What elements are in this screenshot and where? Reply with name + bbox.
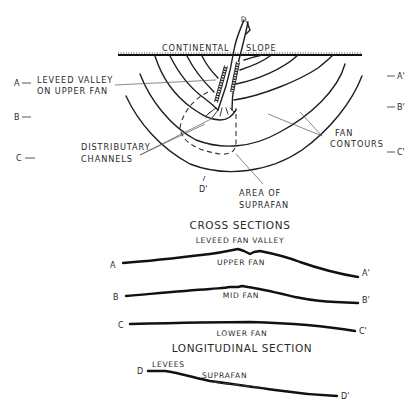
section-c-end: C' xyxy=(359,327,367,336)
key-c-prime: C' xyxy=(397,148,405,157)
levees-label: LEVEES xyxy=(152,360,185,369)
suprafan-label-1: AREA OF xyxy=(239,188,281,198)
distributary-label-1: DISTRIBUTARY xyxy=(81,142,151,152)
cross-sections-title: CROSS SECTIONS xyxy=(190,219,291,231)
d-prime-label: D' xyxy=(199,185,207,194)
key-a-prime: A' xyxy=(397,72,405,81)
fan-contours-label-2: CONTOURS xyxy=(330,139,384,149)
section-a-end: A' xyxy=(362,269,370,278)
suprafan-label-2: SUPRAFAN xyxy=(239,200,289,210)
key-b: B xyxy=(14,113,20,122)
submarine-fan-diagram: D CONTINENTAL SLOPE A B C A' B' C' LEVEE… xyxy=(0,0,419,410)
section-b-start: B xyxy=(113,293,119,302)
canyon-d-label: D xyxy=(241,15,248,24)
key-b-prime: B' xyxy=(397,103,405,112)
section-b-end: B' xyxy=(362,296,370,305)
longitudinal-section: LONGITUDINAL SECTION D LEVEES SUPRAFAN D… xyxy=(137,342,349,401)
lower-fan-label: LOWER FAN xyxy=(217,329,268,338)
key-c: C xyxy=(16,154,22,163)
section-d-end: D' xyxy=(341,392,349,401)
fan-contours xyxy=(126,55,362,172)
cross-sections: CROSS SECTIONS LEVEED FAN VALLEY A UPPER… xyxy=(110,219,370,338)
longitudinal-section-title: LONGITUDINAL SECTION xyxy=(172,342,313,354)
section-a-start: A xyxy=(110,261,116,270)
continental-label: CONTINENTAL xyxy=(162,43,230,53)
section-c-start: C xyxy=(118,321,124,330)
slope-label: SLOPE xyxy=(246,43,277,53)
key-a: A xyxy=(14,79,20,88)
upper-fan-label: UPPER FAN xyxy=(217,258,265,267)
d-prime-tick xyxy=(203,176,205,181)
leveed-valley-label-2: ON UPPER FAN xyxy=(37,86,108,96)
suprafan-section-label: SUPRAFAN xyxy=(202,371,247,380)
distributary-label-2: CHANNELS xyxy=(81,154,133,164)
mid-fan-label: MID FAN xyxy=(223,291,260,300)
leveed-fan-valley-label: LEVEED FAN VALLEY xyxy=(196,236,285,245)
section-d-start: D xyxy=(137,367,143,376)
leveed-valley-label-1: LEVEED VALLEY xyxy=(37,75,113,85)
fan-contours-label-1: FAN xyxy=(335,128,353,138)
feeder-canyon xyxy=(218,20,250,110)
plan-view: D CONTINENTAL SLOPE A B C A' B' C' LEVEE… xyxy=(14,15,405,210)
